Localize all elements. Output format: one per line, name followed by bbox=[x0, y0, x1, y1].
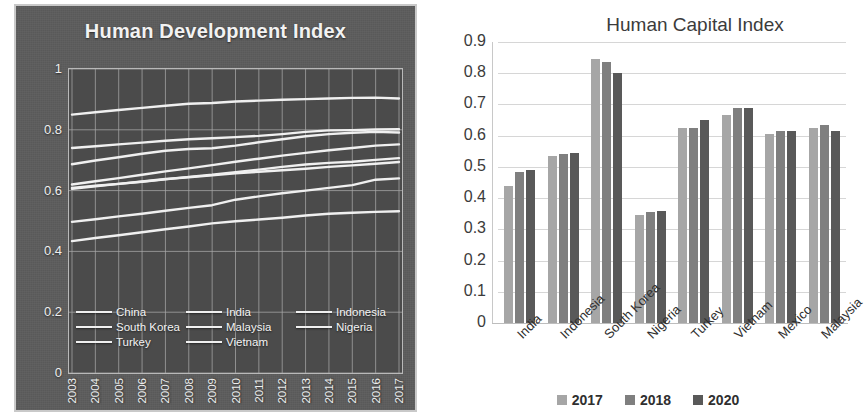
hdi-x-tick: 2006 bbox=[136, 378, 148, 404]
hci-legend-swatch bbox=[625, 395, 635, 405]
hdi-legend-item: Vietnam bbox=[186, 336, 296, 348]
hdi-x-tick: 2015 bbox=[346, 378, 358, 404]
hdi-y-tick: 0.6 bbox=[24, 183, 62, 198]
hci-bar bbox=[613, 73, 622, 323]
legend-line-swatch bbox=[76, 326, 112, 328]
hci-legend-item: 2017 bbox=[557, 392, 603, 408]
hci-bar bbox=[678, 128, 687, 323]
hci-bar bbox=[602, 62, 611, 323]
hdi-x-tick: 2013 bbox=[300, 378, 312, 404]
hci-bar bbox=[744, 108, 753, 323]
hdi-legend-label: Turkey bbox=[116, 336, 151, 348]
hci-y-tick: 0.8 bbox=[436, 63, 486, 81]
hci-bar bbox=[733, 108, 742, 323]
hci-bar bbox=[765, 134, 774, 323]
hdi-legend-item: Turkey bbox=[76, 336, 186, 348]
hdi-x-tick: 2012 bbox=[276, 378, 288, 404]
hci-legend-swatch bbox=[693, 395, 703, 405]
hci-y-tick: 0.6 bbox=[436, 126, 486, 144]
legend-line-swatch bbox=[186, 326, 222, 328]
hdi-x-tick: 2007 bbox=[159, 378, 171, 404]
hci-gridline bbox=[498, 73, 846, 74]
hci-legend-label: 2017 bbox=[572, 392, 603, 408]
legend-line-swatch bbox=[296, 326, 332, 328]
hci-y-tick: 0.3 bbox=[436, 219, 486, 237]
hci-bar bbox=[809, 128, 818, 323]
hci-legend-item: 2020 bbox=[693, 392, 739, 408]
hdi-legend-label: South Korea bbox=[116, 321, 180, 333]
hdi-legend-item: China bbox=[76, 306, 186, 318]
hdi-legend-label: India bbox=[226, 306, 251, 318]
legend-line-swatch bbox=[296, 311, 332, 313]
hdi-y-tick: 0.2 bbox=[24, 304, 62, 319]
hdi-chart-title: Human Development Index bbox=[16, 20, 415, 43]
hci-bar bbox=[646, 212, 655, 323]
hci-y-tick: 0.7 bbox=[436, 94, 486, 112]
hci-gridline bbox=[498, 42, 846, 43]
hdi-legend-label: Malaysia bbox=[226, 321, 271, 333]
hci-bar bbox=[831, 131, 840, 323]
hci-axis-line bbox=[492, 42, 493, 324]
hdi-y-tick: 1 bbox=[24, 61, 62, 76]
legend-line-swatch bbox=[76, 311, 112, 313]
hdi-x-tick: 2005 bbox=[113, 378, 125, 404]
hci-bar bbox=[570, 153, 579, 323]
hci-legend: 201720182020 bbox=[498, 392, 798, 408]
hci-bar bbox=[722, 115, 731, 323]
hdi-y-tick: 0.8 bbox=[24, 122, 62, 137]
hdi-x-tick: 2004 bbox=[89, 378, 101, 404]
legend-line-swatch bbox=[76, 341, 112, 343]
hdi-legend-item: India bbox=[186, 306, 296, 318]
legend-line-swatch bbox=[186, 311, 222, 313]
hci-chart-title: Human Capital Index bbox=[550, 14, 840, 36]
hci-y-tick: 0.2 bbox=[436, 251, 486, 269]
hci-y-tick: 0.5 bbox=[436, 157, 486, 175]
hci-bar bbox=[776, 131, 785, 323]
hdi-legend-item: Nigeria bbox=[296, 321, 406, 333]
hdi-x-tick: 2011 bbox=[253, 378, 265, 403]
hdi-legend-label: Indonesia bbox=[336, 306, 386, 318]
hdi-x-tick: 2014 bbox=[323, 378, 335, 404]
hdi-legend-item: Malaysia bbox=[186, 321, 296, 333]
hci-y-tick: 0.1 bbox=[436, 282, 486, 300]
hdi-legend-item: Indonesia bbox=[296, 306, 406, 318]
hdi-legend-label: Nigeria bbox=[336, 321, 372, 333]
hdi-x-tick: 2008 bbox=[183, 378, 195, 404]
hci-bar bbox=[548, 156, 557, 323]
hdi-legend-label: Vietnam bbox=[226, 336, 268, 348]
hci-bar bbox=[526, 170, 535, 323]
hdi-legend-label: China bbox=[116, 306, 146, 318]
hci-gridline bbox=[498, 104, 846, 105]
hci-bar bbox=[689, 128, 698, 323]
hci-bar bbox=[657, 211, 666, 323]
hci-bar bbox=[787, 131, 796, 323]
hci-legend-item: 2018 bbox=[625, 392, 671, 408]
hdi-legend: ChinaIndiaIndonesiaSouth KoreaMalaysiaNi… bbox=[76, 306, 406, 348]
hdi-legend-item: South Korea bbox=[76, 321, 186, 333]
hdi-x-tick: 2009 bbox=[206, 378, 218, 404]
hci-legend-label: 2020 bbox=[708, 392, 739, 408]
hdi-x-tick: 2017 bbox=[393, 378, 405, 404]
hci-bar bbox=[820, 125, 829, 323]
hci-bar bbox=[504, 186, 513, 323]
hci-bar bbox=[591, 59, 600, 323]
hci-bar bbox=[700, 120, 709, 323]
hdi-x-tick: 2016 bbox=[370, 378, 382, 404]
legend-line-swatch bbox=[186, 341, 222, 343]
hci-chart-panel: Human Capital Index bbox=[430, 0, 861, 416]
hdi-x-tick: 2010 bbox=[230, 378, 242, 404]
hdi-x-tick: 2003 bbox=[66, 378, 78, 404]
hdi-y-tick: 0 bbox=[24, 365, 62, 380]
hci-bar bbox=[559, 154, 568, 323]
hci-y-tick: 0 bbox=[436, 313, 486, 331]
hci-y-tick: 0.9 bbox=[436, 32, 486, 50]
hdi-chart-panel: Human Development Index 10.80.60.40.20 2… bbox=[14, 4, 417, 412]
hci-legend-swatch bbox=[557, 395, 567, 405]
hci-legend-label: 2018 bbox=[640, 392, 671, 408]
hdi-y-tick: 0.4 bbox=[24, 243, 62, 258]
hci-bar bbox=[515, 172, 524, 323]
hci-y-tick: 0.4 bbox=[436, 188, 486, 206]
